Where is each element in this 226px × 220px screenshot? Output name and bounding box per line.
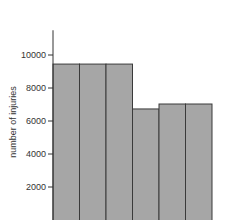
bar-chart: 200040006000800010000 number of injuries	[0, 0, 226, 220]
y-tick-label: 6000	[26, 116, 46, 126]
bar-1	[53, 64, 80, 220]
bars-group	[53, 64, 212, 220]
bar-6	[186, 104, 213, 220]
bar-3	[106, 64, 133, 220]
bar-5	[159, 104, 186, 220]
y-tick-label: 4000	[26, 149, 46, 159]
bar-4	[133, 109, 160, 220]
y-tick-label: 8000	[26, 83, 46, 93]
y-tick-label: 10000	[21, 50, 46, 60]
y-axis-label: number of injuries	[8, 86, 18, 158]
bar-2	[80, 64, 107, 220]
y-tick-label: 2000	[26, 182, 46, 192]
y-ticks-group: 200040006000800010000	[21, 50, 53, 192]
